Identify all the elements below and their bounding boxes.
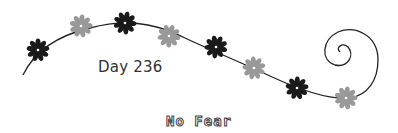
flower-icon bbox=[285, 76, 309, 99]
flower-icon bbox=[113, 11, 136, 34]
title-text: No Fear bbox=[0, 113, 398, 129]
flower-icon bbox=[242, 56, 265, 79]
flower-icon bbox=[69, 14, 92, 38]
flower-icon bbox=[26, 39, 50, 62]
day-label: Day 236 bbox=[98, 58, 162, 76]
